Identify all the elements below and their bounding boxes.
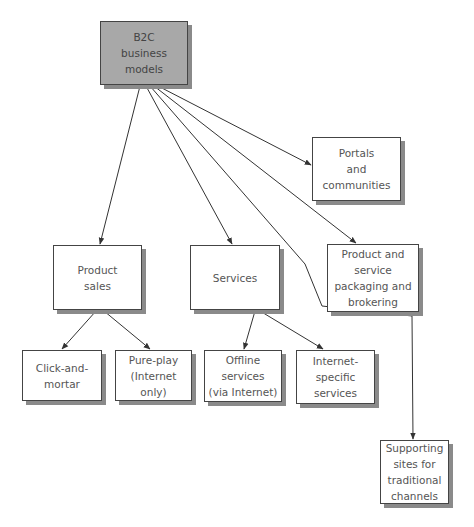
node-b2c-business-models: B2C business models [100,21,188,85]
edge-product_sales-to-click_mortar [62,311,96,349]
node-product-service-packaging: Product and service packaging and broker… [327,244,419,312]
edge-services-to-offline [244,311,255,349]
node-services: Services [190,245,280,310]
b2c-business-models-diagram: B2C business models Portals and communit… [0,0,474,527]
edge-services-to-internet_specific [260,311,323,349]
edge-b2c-to-product_sales [100,86,140,244]
node-product-sales: Product sales [53,245,142,310]
node-click-and-mortar: Click-and- mortar [22,350,102,401]
node-pure-play: Pure-play (Internet only) [115,350,192,401]
edge-b2c-to-portals [158,86,311,165]
node-portals-communities: Portals and communities [312,137,401,201]
edge-product_sales-to-pure_play [104,311,150,349]
node-internet-specific-services: Internet- specific services [296,350,375,404]
node-offline-services: Offline services (via Internet) [204,350,282,402]
node-supporting-sites: Supporting sites for traditional channel… [380,440,449,504]
